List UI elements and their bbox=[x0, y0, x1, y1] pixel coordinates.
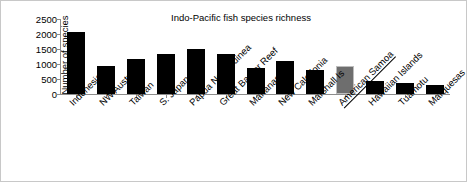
y-axis-tick-label: 2500 bbox=[36, 14, 57, 25]
y-axis-tick-label: 500 bbox=[41, 74, 57, 85]
y-axis-tick-labels: 05001000150020002500 bbox=[27, 15, 57, 97]
y-axis-tick-label: 1500 bbox=[36, 44, 57, 55]
y-axis-tick-mark bbox=[56, 79, 60, 80]
y-axis-tick-mark bbox=[56, 34, 60, 35]
y-axis-tick-label: 1000 bbox=[36, 59, 57, 70]
chart-title: Indo-Pacific fish species richness bbox=[171, 12, 311, 23]
y-axis-tick-mark bbox=[56, 19, 60, 20]
y-axis-tick-mark bbox=[56, 49, 60, 50]
bar-chart-figure: Number of species 05001000150020002500 I… bbox=[0, 0, 467, 182]
y-axis-tick-mark bbox=[56, 94, 60, 95]
y-axis-tick-label: 2000 bbox=[36, 29, 57, 40]
y-axis-tick-mark bbox=[56, 64, 60, 65]
